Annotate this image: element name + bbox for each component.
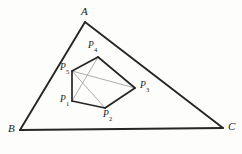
label-p3-text: P (140, 80, 146, 90)
label-p5-text: P (60, 62, 66, 72)
pentagon-outline (72, 57, 135, 108)
geometry-figure: ABCP1P2P3P4P5 (0, 0, 242, 154)
label-p4-text: P (88, 40, 94, 50)
label-a-text: A (81, 5, 88, 17)
label-p2-text: P (103, 109, 109, 119)
label-p5: P5 (60, 63, 69, 74)
label-p1-subscript: 1 (66, 100, 69, 107)
label-b-text: B (8, 122, 15, 134)
label-a: A (81, 6, 88, 17)
label-p3: P3 (140, 81, 149, 92)
figure-canvas (0, 0, 242, 154)
label-p2-subscript: 2 (109, 115, 112, 122)
label-c: C (228, 121, 235, 132)
label-b: B (8, 123, 15, 134)
label-p3-subscript: 3 (146, 86, 149, 93)
label-p1: P1 (60, 95, 69, 106)
label-c-text: C (228, 120, 235, 132)
pentagon-diagonals (72, 57, 135, 108)
pentagon-edge-p2-p3 (105, 88, 135, 108)
label-p1-text: P (60, 94, 66, 104)
triangle-edge-ab (20, 22, 85, 130)
label-p4: P4 (88, 41, 97, 52)
triangle-edge-bc (20, 128, 223, 130)
label-p2: P2 (103, 110, 112, 121)
label-p4-subscript: 4 (94, 46, 97, 53)
label-p5-subscript: 5 (66, 68, 69, 75)
